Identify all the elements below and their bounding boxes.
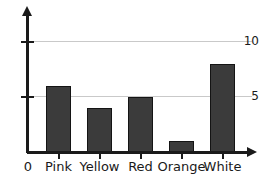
bar (46, 86, 71, 152)
x-axis-label: White (196, 159, 249, 174)
y-axis-tick (21, 96, 34, 98)
bar (210, 64, 235, 152)
gridline (28, 41, 252, 42)
bar-chart: 510 PinkYellowRedOrangeWhite 0 (0, 0, 259, 179)
y-axis-tick (21, 41, 34, 43)
bar (87, 108, 112, 152)
arrow-right-icon (247, 147, 257, 157)
plot-area: 510 PinkYellowRedOrangeWhite 0 (0, 0, 259, 179)
y-axis-tick-label: 5 (238, 90, 259, 102)
y-axis-tick-label: 10 (238, 35, 259, 47)
bar (128, 97, 153, 152)
y-axis-line (26, 14, 29, 153)
arrow-up-icon (22, 6, 32, 16)
origin-label: 0 (21, 159, 35, 174)
x-axis-line (27, 151, 250, 154)
